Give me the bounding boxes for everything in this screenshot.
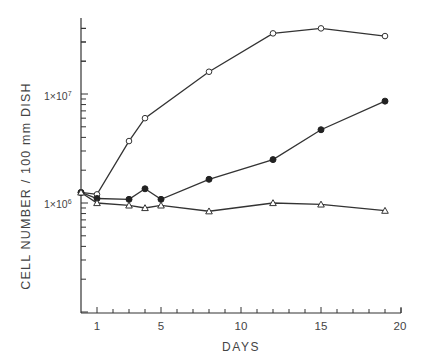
open-circle-marker (270, 31, 276, 37)
x-tick-label-5: 5 (158, 320, 164, 332)
open-circle-marker (142, 115, 148, 121)
open-circle-marker (382, 33, 388, 39)
x-tick-label-20: 20 (394, 320, 407, 332)
series-line-1 (81, 101, 385, 199)
x-tick-label-1: 1 (94, 320, 100, 332)
open-circle-marker (126, 138, 132, 144)
open-circle-marker (318, 26, 324, 32)
y-tick-label-1e6: 1×106 (44, 198, 72, 211)
series-line-0 (81, 28, 385, 194)
filled-circle-marker (142, 186, 148, 192)
y-tick-label-1e7: 1×107 (44, 90, 72, 103)
x-axis-title: DAYS (222, 340, 260, 354)
y-axis-title: CELL NUMBER / 100 mm DISH (19, 82, 33, 289)
x-tick-label-10: 10 (235, 320, 248, 332)
filled-circle-marker (318, 127, 324, 133)
chart-canvas (0, 0, 426, 363)
open-circle-marker (206, 69, 212, 75)
x-tick-label-15: 15 (315, 320, 328, 332)
filled-circle-marker (270, 157, 276, 163)
filled-circle-marker (206, 176, 212, 182)
filled-circle-marker (382, 98, 388, 104)
